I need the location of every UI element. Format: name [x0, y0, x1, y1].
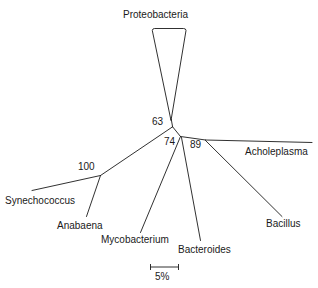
taxon-label-anabaena: Anabaena: [57, 220, 103, 231]
support-value-74: 74: [164, 136, 175, 147]
taxon-label-synechococcus: Synechococcus: [5, 195, 75, 206]
branch-synechococcus: [32, 176, 101, 191]
taxon-label-acholeplasma: Acholeplasma: [245, 146, 308, 157]
branch-mycobacterium: [141, 137, 181, 233]
taxon-label-bacillus: Bacillus: [266, 218, 300, 229]
branch-63-to-100: [101, 127, 173, 176]
taxon-label-mycobacterium: Mycobacterium: [101, 234, 169, 245]
scale-bar-line: [151, 264, 179, 270]
taxon-label-proteobacteria: Proteobacteria: [123, 9, 188, 20]
branch-anabaena: [87, 176, 101, 217]
phylogenetic-tree-figure: Proteobacteria Synechococcus Anabaena My…: [0, 0, 318, 288]
branch-bacteroides: [182, 138, 201, 241]
support-value-89: 89: [190, 139, 201, 150]
branch-proteobacteria: [171, 120, 172, 127]
scale-bar-label: 5%: [155, 271, 169, 282]
branch-acholeplasma: [206, 140, 313, 143]
proteobacteria-clade-wedge: [152, 29, 186, 121]
taxon-label-bacteroides: Bacteroides: [178, 244, 231, 255]
support-value-100: 100: [78, 161, 95, 172]
support-value-63: 63: [152, 116, 163, 127]
